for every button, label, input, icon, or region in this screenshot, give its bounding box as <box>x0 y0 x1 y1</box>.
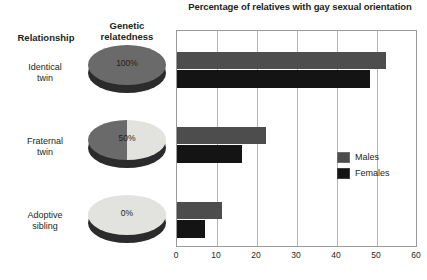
xtick-30: 30 <box>286 250 306 260</box>
legend-swatch-males <box>337 152 350 163</box>
chart-legend: Males Females <box>337 152 390 184</box>
plot-area <box>176 30 417 247</box>
xtick-60: 60 <box>406 250 426 260</box>
relatedness-percent-label: 0% <box>88 208 166 218</box>
column-header-relationship: Relationship <box>8 32 84 43</box>
legend-item-females[interactable]: Females <box>337 168 390 179</box>
relatedness-percent-label: 100% <box>88 58 166 68</box>
relatedness-percent-label: 50% <box>88 133 166 143</box>
xtick-10: 10 <box>206 250 226 260</box>
xtick-40: 40 <box>326 250 346 260</box>
row-label-fraternal-twin: Fraternaltwin <box>6 136 84 158</box>
legend-swatch-females <box>337 168 350 179</box>
legend-label-males: Males <box>355 152 379 163</box>
xtick-0: 0 <box>166 250 186 260</box>
row-label-adoptive-sibling: Adoptivesibling <box>6 210 84 232</box>
legend-item-males[interactable]: Males <box>337 152 390 163</box>
relatedness-disk-identical-twin: 100% <box>88 45 166 95</box>
bar-identical-twin-females[interactable] <box>177 70 370 88</box>
bar-adoptive-sibling-females[interactable] <box>177 220 205 238</box>
row-label-identical-twin: Identicaltwin <box>6 62 84 84</box>
xtick-50: 50 <box>366 250 386 260</box>
legend-label-females: Females <box>355 168 390 179</box>
column-header-genetic-relatedness: Geneticrelatedness <box>86 20 168 42</box>
bar-fraternal-twin-males[interactable] <box>177 127 266 144</box>
chart-figure: Percentage of relatives with gay sexual … <box>0 0 427 280</box>
relatedness-disk-adoptive-sibling: 0% <box>88 195 166 245</box>
bar-identical-twin-males[interactable] <box>177 52 386 69</box>
chart-title: Percentage of relatives with gay sexual … <box>180 1 420 13</box>
xtick-20: 20 <box>246 250 266 260</box>
bar-fraternal-twin-females[interactable] <box>177 145 242 163</box>
relatedness-disk-fraternal-twin: 50% <box>88 120 166 170</box>
bar-adoptive-sibling-males[interactable] <box>177 202 222 219</box>
